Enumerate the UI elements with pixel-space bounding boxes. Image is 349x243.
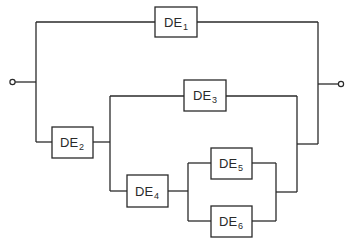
block-de6-subscript: 6: [238, 221, 243, 231]
block-de2: DE 2: [52, 127, 93, 158]
block-de1: DE 1: [155, 7, 197, 37]
block-de1-subscript: 1: [183, 22, 188, 32]
block-de5-subscript: 5: [238, 163, 243, 173]
block-de4-label: DE: [135, 184, 153, 199]
block-de6: DE 6: [211, 206, 252, 237]
block-de4-subscript: 4: [154, 191, 159, 201]
block-de5: DE 5: [211, 148, 252, 179]
block-de3-subscript: 3: [212, 95, 217, 105]
reliability-block-diagram: DE 1 DE 2 DE 3 DE 4 DE 5 DE 6: [0, 0, 349, 243]
block-de3-label: DE: [193, 88, 211, 103]
input-terminal: [10, 79, 36, 84]
output-terminal: [318, 81, 344, 86]
block-de5-label: DE: [219, 156, 237, 171]
block-de1-label: DE: [164, 15, 182, 30]
block-de6-label: DE: [219, 214, 237, 229]
block-de2-subscript: 2: [79, 142, 84, 152]
block-de4: DE 4: [127, 175, 168, 207]
block-de2-label: DE: [60, 135, 78, 150]
block-de3: DE 3: [184, 80, 226, 111]
